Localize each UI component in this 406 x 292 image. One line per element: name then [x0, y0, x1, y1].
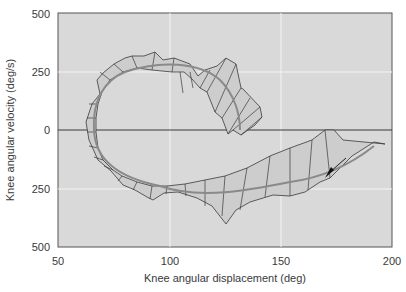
- svg-text:200: 200: [383, 255, 401, 267]
- y-axis-title: Knee angular velocity (deg/s): [4, 59, 16, 201]
- y-tick-labels: 500 250 0 250 500: [32, 8, 50, 253]
- x-tick-labels: 50 100 150 200: [52, 255, 401, 267]
- svg-text:500: 500: [32, 8, 50, 20]
- svg-text:0: 0: [44, 124, 50, 136]
- x-axis-title: Knee angular displacement (deg): [144, 272, 306, 284]
- svg-text:250: 250: [32, 183, 50, 195]
- svg-text:150: 150: [272, 255, 290, 267]
- svg-text:500: 500: [32, 241, 50, 253]
- svg-text:100: 100: [161, 255, 179, 267]
- svg-text:250: 250: [32, 66, 50, 78]
- phase-plot: 500 250 0 250 500 50 100 150 200 Knee an…: [0, 0, 406, 292]
- svg-text:50: 50: [52, 255, 64, 267]
